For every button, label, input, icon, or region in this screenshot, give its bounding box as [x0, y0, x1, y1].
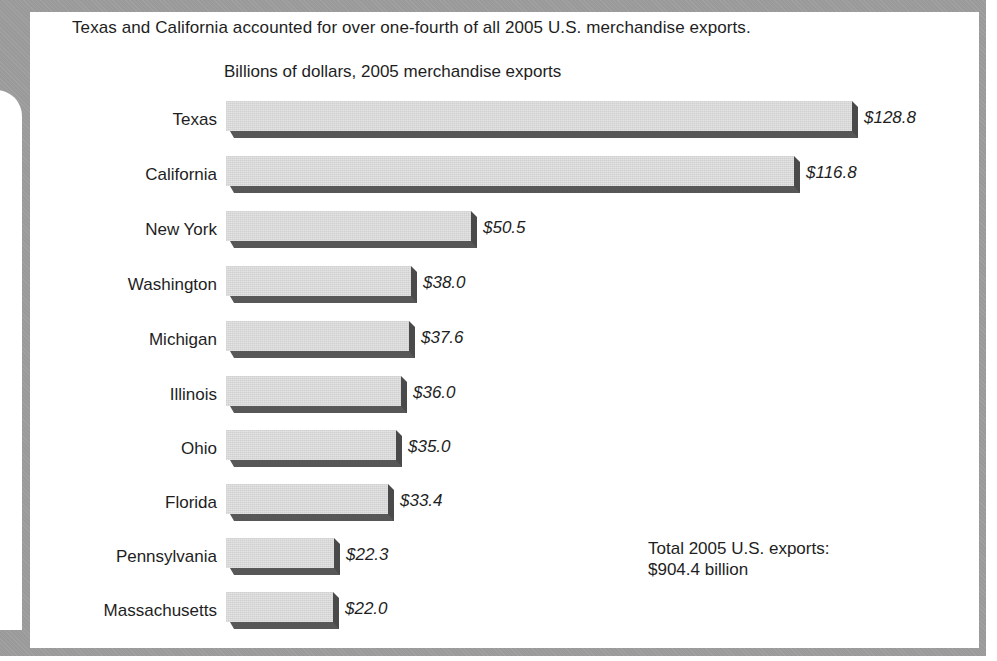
value-label: $128.8: [864, 108, 916, 128]
bar-shadow: [230, 241, 477, 248]
value-label: $37.6: [421, 328, 464, 348]
bar-face: [226, 211, 471, 241]
value-label: $33.4: [400, 491, 443, 511]
bar-row: Michigan$37.6: [0, 321, 997, 361]
chart-subtitle: Billions of dollars, 2005 merchandise ex…: [224, 62, 561, 82]
category-label: Florida: [165, 493, 217, 513]
bar-face: [226, 376, 401, 406]
bar-face: [226, 484, 388, 514]
bar-face: [226, 321, 409, 351]
bar: [226, 592, 333, 632]
bar-row: Illinois$36.0: [0, 376, 997, 416]
bar: [226, 376, 401, 416]
category-label: New York: [145, 220, 217, 240]
bar-face: [226, 592, 333, 622]
bar-shadow: [230, 131, 858, 138]
total-note-line1: Total 2005 U.S. exports:: [648, 538, 829, 559]
bar: [226, 484, 388, 524]
bar-shadow: [230, 568, 340, 575]
bar-face: [226, 266, 411, 296]
value-label: $35.0: [408, 437, 451, 457]
category-label: Washington: [128, 275, 217, 295]
bar: [226, 266, 411, 306]
category-label: Pennsylvania: [116, 547, 217, 567]
value-label: $50.5: [483, 218, 526, 238]
bar-shadow: [230, 351, 415, 358]
value-label: $116.8: [806, 163, 857, 183]
bar-face: [226, 538, 334, 568]
value-label: $22.0: [345, 599, 388, 619]
category-label: Massachusetts: [104, 601, 217, 621]
bar-face: [226, 430, 396, 460]
bar-row: Texas$128.8: [0, 101, 997, 141]
total-exports-note: Total 2005 U.S. exports: $904.4 billion: [648, 538, 829, 580]
bar-face: [226, 156, 794, 186]
bar: [226, 156, 794, 196]
bar: [226, 430, 396, 470]
bar-shadow: [230, 296, 417, 303]
bar-row: New York$50.5: [0, 211, 997, 251]
bar-row: Washington$38.0: [0, 266, 997, 306]
bar: [226, 538, 334, 578]
total-note-line2: $904.4 billion: [648, 559, 829, 580]
bar-shadow: [230, 514, 394, 521]
bar-face: [226, 101, 852, 131]
bar: [226, 101, 852, 141]
bar-shadow: [230, 186, 800, 193]
bar: [226, 321, 409, 361]
bar-shadow: [230, 622, 339, 629]
bar-shadow: [230, 460, 402, 467]
chart-title: Texas and California accounted for over …: [72, 18, 751, 38]
value-label: $36.0: [413, 383, 456, 403]
bar-row: Massachusetts$22.0: [0, 592, 997, 632]
category-label: California: [145, 165, 217, 185]
bar-shadow: [230, 406, 407, 413]
bar-row: Pennsylvania$22.3: [0, 538, 997, 578]
category-label: Ohio: [181, 439, 217, 459]
bar-row: California$116.8: [0, 156, 997, 196]
value-label: $38.0: [423, 273, 466, 293]
value-label: $22.3: [346, 545, 389, 565]
category-label: Michigan: [149, 330, 217, 350]
bar-row: Ohio$35.0: [0, 430, 997, 470]
bar-row: Florida$33.4: [0, 484, 997, 524]
bar: [226, 211, 471, 251]
category-label: Texas: [173, 110, 217, 130]
category-label: Illinois: [170, 385, 217, 405]
